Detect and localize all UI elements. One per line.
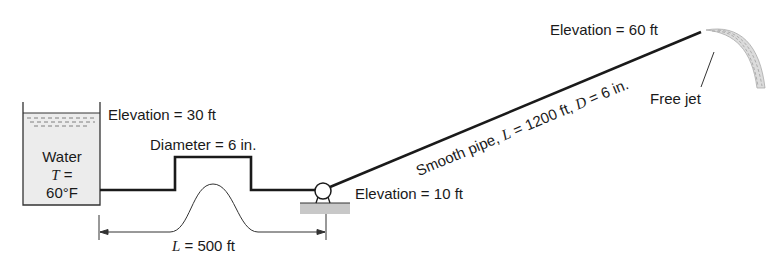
temp-eq: = bbox=[60, 166, 73, 183]
tank-temp-label: T = bbox=[23, 167, 101, 183]
dimension-line bbox=[99, 207, 326, 240]
outlet-elevation-label: Elevation = 60 ft bbox=[550, 22, 658, 37]
jet-leader-line bbox=[701, 52, 714, 87]
tank-temp-value: 60°F bbox=[23, 185, 101, 200]
pump-elevation-label: Elevation = 10 ft bbox=[355, 186, 463, 201]
tank-elevation-label: Elevation = 30 ft bbox=[108, 107, 216, 122]
length-500-label: L = 500 ft bbox=[172, 238, 235, 254]
pump-icon bbox=[300, 183, 350, 214]
tank-fluid-label: Water bbox=[23, 149, 101, 164]
sloped-pipe bbox=[330, 32, 701, 187]
diagram-canvas bbox=[0, 0, 779, 270]
free-jet-icon bbox=[706, 29, 765, 88]
free-jet-label: Free jet bbox=[650, 91, 701, 106]
diameter-label: Diameter = 6 in. bbox=[150, 137, 256, 152]
terrain-hump bbox=[170, 184, 258, 232]
temp-variable: T bbox=[51, 167, 59, 183]
